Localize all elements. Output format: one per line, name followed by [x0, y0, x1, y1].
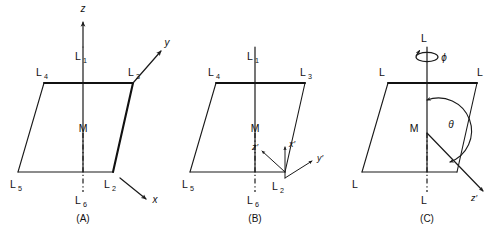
panel-c-theta-label: θ — [448, 119, 454, 130]
svg-text:6: 6 — [83, 200, 87, 209]
panel-b-axis-y-prime-label: y′ — [316, 153, 324, 163]
panel-a-label-metal: M — [79, 122, 88, 134]
panel-c-axis-z-prime — [427, 133, 483, 191]
panel-b-axis-z-prime-label: z′ — [251, 142, 259, 152]
svg-text:2: 2 — [112, 184, 116, 193]
panel-a-axis-z-label: z — [80, 3, 86, 14]
panel-b: z′ x′ y′ L 1 L 4 L 3 L 5 L 2 — [182, 47, 323, 224]
svg-text:L: L — [10, 178, 16, 190]
svg-text:L: L — [182, 178, 188, 190]
svg-text:5: 5 — [190, 184, 194, 193]
panel-a-label-L3: L 3 — [128, 66, 140, 81]
panel-b-edge-left — [190, 83, 216, 172]
panel-b-axis-z-prime — [262, 151, 285, 172]
panel-a-edge-left — [18, 83, 44, 172]
svg-text:L: L — [272, 180, 278, 192]
figure-canvas: z y x L 1 L 4 L 3 L 5 — [0, 0, 502, 230]
svg-text:6: 6 — [255, 200, 259, 209]
svg-text:L: L — [128, 66, 134, 78]
svg-text:4: 4 — [216, 72, 220, 81]
svg-text:3: 3 — [308, 72, 312, 81]
panel-b-edge-right — [285, 83, 305, 172]
svg-text:L: L — [247, 50, 253, 62]
panel-a-axis-x-label: x — [152, 194, 159, 205]
panel-a-label-L5: L 5 — [10, 178, 22, 193]
svg-text:3: 3 — [136, 72, 140, 81]
panel-c-axis-z-prime-label: z′ — [470, 193, 478, 203]
panel-b-label-L1: L 1 — [247, 50, 259, 65]
svg-text:L: L — [75, 50, 81, 62]
panel-c-caption: (C) — [420, 213, 434, 224]
panel-b-label-L3: L 3 — [300, 66, 312, 81]
panel-c-label-L-top: L — [421, 32, 427, 44]
svg-text:1: 1 — [255, 56, 259, 65]
svg-text:L: L — [75, 194, 81, 206]
panel-a-label-L4: L 4 — [36, 66, 48, 81]
panel-a-caption: (A) — [76, 213, 89, 224]
panel-b-label-L6: L 6 — [247, 194, 259, 209]
panel-b-label-L2: L 2 — [272, 180, 284, 195]
panel-a-label-L6: L 6 — [75, 194, 87, 209]
svg-text:L: L — [247, 194, 253, 206]
panel-b-axis-y-prime — [285, 161, 312, 178]
panel-c-label-metal: M — [410, 122, 419, 134]
panel-c-edge-right — [457, 83, 477, 172]
panel-a: z y x L 1 L 4 L 3 L 5 — [10, 3, 171, 224]
panel-b-label-L4: L 4 — [208, 66, 220, 81]
panel-b-label-L5: L 5 — [182, 178, 194, 193]
svg-text:4: 4 — [44, 72, 48, 81]
svg-text:L: L — [104, 178, 110, 190]
panel-a-label-L2: L 2 — [104, 178, 116, 193]
panel-a-edge-right — [113, 83, 133, 172]
panel-c-label-L-back-right: L — [477, 66, 483, 78]
svg-text:L: L — [208, 66, 214, 78]
panel-b-label-metal: M — [251, 122, 260, 134]
panel-c-phi-label: ϕ — [441, 52, 447, 63]
panel-c-edge-left — [362, 83, 388, 172]
svg-text:5: 5 — [18, 184, 22, 193]
panel-b-caption: (B) — [248, 213, 261, 224]
panel-a-axis-y-label: y — [164, 37, 171, 48]
panel-c-label-L-back-left: L — [379, 66, 385, 78]
svg-text:1: 1 — [83, 56, 87, 65]
svg-text:L: L — [300, 66, 306, 78]
svg-text:2: 2 — [280, 186, 284, 195]
panel-c-label-L-front-left: L — [352, 178, 358, 190]
panel-a-axis-x — [120, 178, 146, 199]
panel-c-label-L-bottom: L — [421, 194, 427, 206]
octahedral-geometry-figure: z y x L 1 L 4 L 3 L 5 — [0, 0, 502, 230]
panel-b-axis-x-prime-label: x′ — [288, 139, 296, 149]
panel-c: ϕ z′ θ L L L L L M (C) — [352, 32, 483, 224]
svg-text:L: L — [36, 66, 42, 78]
panel-a-label-L1: L 1 — [75, 50, 87, 65]
